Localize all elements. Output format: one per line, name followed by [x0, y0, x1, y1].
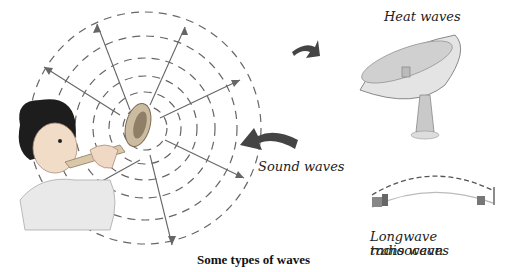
satellite-dish — [357, 32, 461, 139]
sound-waves-label: Sound waves — [258, 160, 345, 174]
boy-with-trumpet — [19, 99, 156, 230]
arrow-to-sound-icon — [240, 128, 298, 150]
heat-waves-label: Heat waves — [384, 10, 461, 24]
earth-curve-radio — [372, 176, 494, 207]
figure-caption: Some types of waves — [0, 252, 507, 268]
arrow-to-heat-icon — [292, 40, 320, 58]
